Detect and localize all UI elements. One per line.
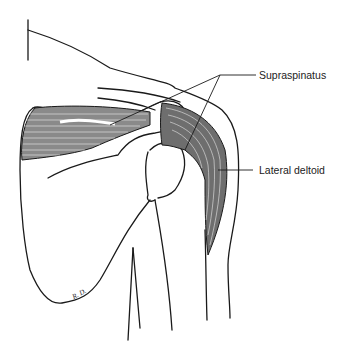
deltoid-muscle: [161, 103, 227, 255]
label-lateral-deltoid: Lateral deltoid: [259, 164, 325, 176]
shoulder-illustration: [0, 0, 342, 355]
arm-medial: [155, 200, 172, 330]
supraspinatus-muscle: [22, 106, 150, 160]
humeral-head: [150, 143, 184, 199]
anatomy-figure: Supraspinatus Lateral deltoid R. D.: [0, 0, 342, 355]
label-supraspinatus: Supraspinatus: [259, 69, 326, 81]
